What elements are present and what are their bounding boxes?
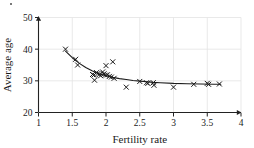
data-point-marker (92, 78, 97, 83)
x-tick-label: 3.5 (201, 118, 213, 128)
chart-figure: 11.522.533.5420304050Fertility rateAvera… (0, 0, 254, 148)
gridlines (39, 18, 242, 113)
y-tick-label: 50 (23, 13, 33, 23)
scatter-plot-canvas: 11.522.533.5420304050Fertility rateAvera… (0, 0, 254, 148)
x-tick-label: 1.5 (66, 118, 78, 128)
fitted-trend-curve (66, 51, 221, 84)
y-axis-arrowhead (36, 16, 41, 21)
x-tick-label: 4 (239, 118, 244, 128)
x-tick-label: 3 (171, 118, 176, 128)
data-point-marker (75, 63, 80, 68)
tick-marks: 11.522.533.5420304050 (23, 13, 244, 128)
y-axis-label: Average age (1, 38, 13, 93)
y-tick-label: 40 (23, 45, 33, 55)
data-point-marker (110, 59, 115, 64)
axes (36, 16, 242, 115)
y-tick-label: 20 (23, 108, 33, 118)
x-tick-label: 1 (36, 118, 41, 128)
x-tick-label: 2.5 (134, 118, 146, 128)
data-point-marker (124, 85, 129, 90)
x-tick-label: 2 (104, 118, 109, 128)
x-axis-label: Fertility rate (112, 133, 167, 145)
y-tick-label: 30 (23, 76, 33, 86)
